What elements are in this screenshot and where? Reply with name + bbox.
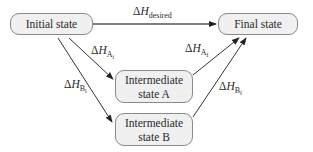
node-initial-label: Initial state <box>26 17 77 31</box>
h-symbol: H <box>192 42 200 54</box>
node-intermediate-a: Intermediate state A <box>115 70 193 103</box>
sub-subscript: f <box>240 90 242 96</box>
sub-subscript: f <box>207 52 209 58</box>
node-initial-state: Initial state <box>10 13 93 35</box>
node-b-line2: state B <box>138 130 170 144</box>
sub-subscript: i <box>85 88 87 94</box>
label-delta-h-b-initial: ΔHBi <box>64 78 87 94</box>
label-delta-h-b-final: ΔHBf <box>219 80 242 96</box>
node-final-label: Final state <box>234 17 282 31</box>
node-a-line2: state A <box>138 87 170 101</box>
h-symbol: H <box>226 80 234 92</box>
h-symbol: H <box>71 78 79 90</box>
node-intermediate-b: Intermediate state B <box>115 113 193 146</box>
h-symbol: H <box>140 5 148 17</box>
h-symbol: H <box>98 44 106 56</box>
label-delta-h-a-final: ΔHAf <box>185 42 209 58</box>
label-delta-h-a-initial: ΔHAi <box>91 44 114 60</box>
sub-subscript: i <box>113 54 115 60</box>
subscript: desired <box>149 11 172 20</box>
node-final-state: Final state <box>218 13 298 35</box>
node-a-line1: Intermediate <box>125 73 183 87</box>
label-delta-h-desired: ΔHdesired <box>133 5 172 20</box>
node-b-line1: Intermediate <box>125 116 183 130</box>
